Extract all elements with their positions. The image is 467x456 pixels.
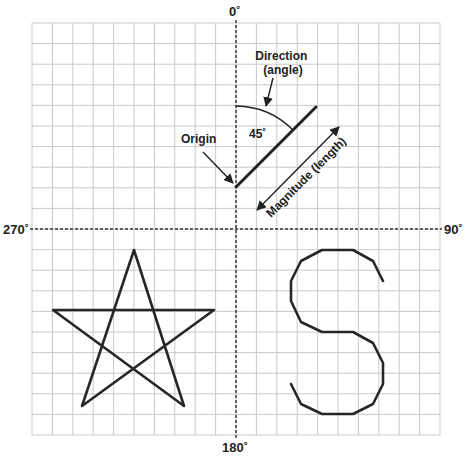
vector-diagram: 0˚ 90˚ 180˚ 270˚ 45˚ Direction (angle) O… <box>0 0 467 456</box>
direction-label-line1: Direction <box>255 49 307 63</box>
axis-label-0: 0˚ <box>229 4 241 19</box>
angle-label: 45˚ <box>249 127 266 141</box>
axis-label-90: 90˚ <box>444 222 463 237</box>
direction-arrow <box>266 78 273 106</box>
axis-label-180: 180˚ <box>222 440 248 455</box>
magnitude-arrow <box>257 127 339 210</box>
direction-label-line2: (angle) <box>263 63 302 77</box>
origin-label: Origin <box>181 132 216 146</box>
axis-label-270: 270˚ <box>3 222 29 237</box>
direction-label: Direction (angle) <box>255 49 310 77</box>
